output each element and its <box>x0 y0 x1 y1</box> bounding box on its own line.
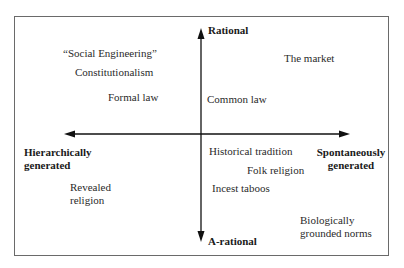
arrow-up-icon <box>198 28 205 39</box>
item-formal-law: Formal law <box>108 91 158 104</box>
arrow-down-icon <box>198 231 205 242</box>
item-incest-taboos: Incest taboos <box>212 182 270 195</box>
pole-a-rational: A-rational <box>208 235 257 248</box>
item-constitutionalism: Constitutionalism <box>75 66 153 79</box>
item-biological-norms-line1: Biologically <box>300 214 372 227</box>
pole-hierarchically-generated: Hierarchically generated <box>24 146 92 172</box>
pole-right-line2: generated <box>314 159 388 172</box>
item-revealed-religion: Revealed religion <box>70 181 111 207</box>
item-revealed-religion-line2: religion <box>70 194 111 207</box>
pole-spontaneously-generated: Spontaneously generated <box>314 146 388 172</box>
item-social-engineering: “Social Engineering” <box>63 47 157 60</box>
pole-left-line2: generated <box>24 159 92 172</box>
item-common-law: Common law <box>207 93 267 106</box>
item-the-market: The market <box>284 52 334 65</box>
item-biologically-grounded-norms: Biologically grounded norms <box>300 214 372 240</box>
pole-left-line1: Hierarchically <box>24 146 92 159</box>
item-folk-religion: Folk religion <box>247 164 304 177</box>
item-biological-norms-line2: grounded norms <box>300 227 372 240</box>
pole-rational: Rational <box>208 24 248 37</box>
item-historical-tradition: Historical tradition <box>209 145 292 158</box>
arrow-left-icon <box>64 131 75 138</box>
pole-right-line1: Spontaneously <box>314 146 388 159</box>
arrow-right-icon <box>339 131 350 138</box>
item-revealed-religion-line1: Revealed <box>70 181 111 194</box>
